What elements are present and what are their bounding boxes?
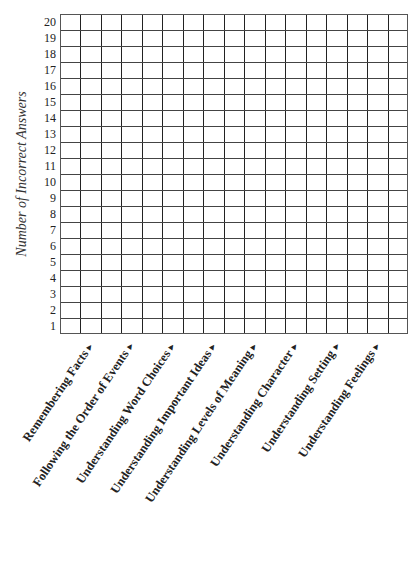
grid-row-line	[61, 302, 407, 303]
y-tick-label: 2	[26, 302, 56, 318]
y-tick-label: 3	[26, 286, 56, 302]
y-tick-label: 17	[26, 62, 56, 78]
y-tick-label: 8	[26, 206, 56, 222]
category-label-text: Understanding Character	[207, 347, 296, 469]
grid-row-line	[61, 286, 407, 287]
y-tick-label: 16	[26, 78, 56, 94]
grid-row-line	[61, 238, 407, 239]
grid-row-line	[61, 270, 407, 271]
category-label-text: Understanding Feelings	[295, 347, 377, 460]
grid-row-line	[61, 46, 407, 47]
grid-row-line	[61, 110, 407, 111]
grid-row-line	[61, 142, 407, 143]
y-tick-label: 1	[26, 318, 56, 334]
y-axis-label: Number of Incorrect Answers	[14, 91, 30, 256]
category-label-text: Understanding Setting	[259, 347, 338, 455]
y-tick-label: 10	[26, 174, 56, 190]
grid-row-line	[61, 126, 407, 127]
grid-row-line	[61, 190, 407, 191]
grid-row-line	[61, 254, 407, 255]
grid-row-line	[61, 30, 407, 31]
grid-row-line	[61, 174, 407, 175]
y-tick-label: 7	[26, 222, 56, 238]
graph-grid	[60, 14, 408, 334]
grid-row-line	[61, 206, 407, 207]
y-tick-label: 13	[26, 126, 56, 142]
grid-row-line	[61, 62, 407, 63]
y-tick-label: 14	[26, 110, 56, 126]
y-tick-label: 15	[26, 94, 56, 110]
y-tick-label: 19	[26, 30, 56, 46]
y-tick-label: 9	[26, 190, 56, 206]
grid-row-line	[61, 158, 407, 159]
y-tick-label: 20	[26, 14, 56, 30]
triangle-pointer-icon: ▲	[82, 338, 97, 355]
y-tick-label: 5	[26, 254, 56, 270]
grid-row-line	[61, 318, 407, 319]
grid-row-line	[61, 222, 407, 223]
y-tick-label: 6	[26, 238, 56, 254]
y-tick-label: 11	[26, 158, 56, 174]
category-label: Remembering Facts▲	[20, 338, 99, 444]
grid-row-line	[61, 78, 407, 79]
y-tick-label: 18	[26, 46, 56, 62]
grid-row-line	[61, 94, 407, 95]
y-tick-label: 4	[26, 270, 56, 286]
y-tick-label: 12	[26, 142, 56, 158]
